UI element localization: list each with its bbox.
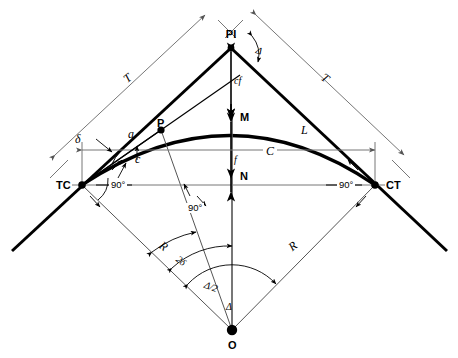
angle-label-ninety-left: 90° — [109, 180, 127, 190]
dimension-label-cf: cf — [234, 76, 241, 86]
tangent-dimension-left — [50, 15, 243, 178]
curve-diagram: PI TC CT P O M N T T cf L C f a c δ R R … — [0, 0, 458, 358]
dimension-label-c-subchord: c — [135, 153, 140, 165]
right-angle-leaders — [90, 160, 366, 207]
angle-label-ninety-right: 90° — [337, 180, 355, 190]
point-label-ct: CT — [386, 180, 401, 191]
point-label-tc: TC — [56, 180, 71, 191]
point-label-m: M — [240, 112, 249, 123]
dimension-label-c-chord: C — [263, 145, 277, 157]
angle-label-ninety-mid: 90° — [186, 203, 204, 213]
point-label-o: O — [228, 340, 237, 351]
central-angle-arcs — [152, 232, 276, 284]
point-label-n: N — [240, 171, 248, 182]
point-label-p: P — [157, 118, 164, 129]
dimension-label-delta: δ — [75, 133, 81, 145]
dimension-label-a-arc: a — [128, 128, 134, 140]
point-label-pi: PI — [226, 29, 236, 40]
dimension-label-l: L — [301, 124, 308, 136]
dimension-label-delta-center: Δ — [226, 302, 232, 312]
dimension-label-f: f — [234, 155, 237, 165]
